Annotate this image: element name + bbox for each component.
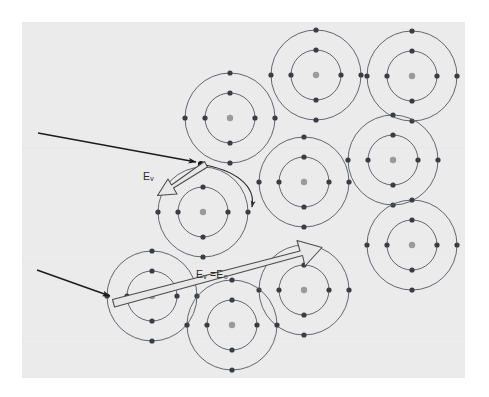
electron-outer [229,367,234,372]
nucleus [313,72,319,78]
electron-outer [184,322,189,327]
electron-inner [276,287,281,292]
electron-inner [409,267,414,272]
electron-outer [364,73,369,78]
electron-outer [346,287,351,292]
electron-inner [149,268,154,273]
electron-inner [149,318,154,323]
electron-outer [149,338,154,343]
electron-outer [272,115,277,120]
nucleus [409,73,415,79]
electron-outer [409,287,414,292]
electron-inner [204,322,209,327]
electron-inner [384,73,389,78]
electron-inner [276,179,281,184]
electron-inner [326,287,331,292]
figure-root: Eᵥ Eᵥ =E₀ [0,0,489,397]
nucleus [301,179,307,185]
nucleus [229,322,235,328]
electron-inner [365,157,370,162]
electron-inner [229,347,234,352]
electron-outer [409,28,414,33]
nucleus [301,287,307,293]
electron-inner [174,293,179,298]
electron-inner [384,242,389,247]
electron-inner [202,115,207,120]
electron-outer [454,242,459,247]
electron-inner [390,132,395,137]
electron-inner [390,182,395,187]
electron-inner [301,204,306,209]
electron-outer [301,332,306,337]
electron-inner [313,47,318,52]
electron-outer [256,179,261,184]
electron-outer [390,112,395,117]
electron-outer [245,209,250,214]
electron-inner [288,72,293,77]
nucleus [409,242,415,248]
electron-outer [358,72,363,77]
electron-outer [227,160,232,165]
electron-inner [252,115,257,120]
electron-outer [313,117,318,122]
electron-inner [326,179,331,184]
electron-inner [409,98,414,103]
electron-outer [229,277,234,282]
electron-inner [227,140,232,145]
electron-outer [301,134,306,139]
nucleus [390,157,396,163]
electron-inner [175,209,180,214]
electron-inner [415,157,420,162]
electron-outer [301,224,306,229]
electron-inner [225,209,230,214]
electron-inner [301,154,306,159]
electron-inner [254,322,259,327]
electron-inner [409,48,414,53]
electron-inner [434,73,439,78]
label-ev: Eᵥ [143,170,154,182]
nucleus [200,209,206,215]
electron-inner [200,184,205,189]
electron-inner [200,234,205,239]
electron-outer [435,157,440,162]
electron-outer [409,197,414,202]
electron-outer [155,209,160,214]
electron-outer [454,73,459,78]
electron-inner [434,242,439,247]
electron-outer [227,70,232,75]
electron-inner [313,97,318,102]
electron-inner [301,312,306,317]
electron-outer [345,157,350,162]
electron-outer [313,27,318,32]
electron-inner [227,90,232,95]
electron-inner [338,72,343,77]
electron-outer [149,248,154,253]
electron-outer [268,72,273,77]
label-ev-e0-text: Eᵥ =E₀ [196,268,228,280]
electron-outer [346,179,351,184]
label-ev-e0: Eᵥ =E₀ [196,268,228,280]
electron-outer [274,322,279,327]
label-ev-text: Eᵥ [143,170,154,182]
electron-outer [182,115,187,120]
electron-outer [200,254,205,259]
electron-inner [229,297,234,302]
scattering-diagram [0,0,489,397]
electron-outer [364,242,369,247]
nucleus [227,115,233,121]
electron-inner [409,217,414,222]
